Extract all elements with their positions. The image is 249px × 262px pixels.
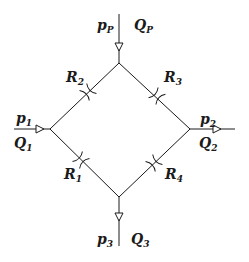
edge-left-top: [50, 63, 119, 129]
edge-left-bottom: [50, 129, 119, 197]
label-r4: R4: [164, 166, 183, 184]
label-r3: R3: [163, 69, 182, 87]
resistor-r3-icon: [149, 87, 166, 104]
label-pressure-2: p2: [200, 111, 216, 129]
label-flow-2: Q2: [199, 135, 217, 153]
edge-top-right: [119, 63, 190, 129]
arrow-down-icon: [115, 213, 123, 221]
label-r1: R1: [63, 166, 82, 184]
label-pressure-1: p1: [16, 110, 32, 128]
edge-right-bottom: [119, 129, 190, 197]
label-flow-p: QP: [134, 17, 153, 35]
arrow-down-icon: [115, 43, 123, 51]
label-r2: R2: [65, 69, 84, 87]
label-pressure-p: pP: [97, 17, 114, 35]
arrow-right-icon: [36, 125, 44, 133]
bridge-diagram: pP QP p1 Q1 p2 Q2 p3 Q3 R2 R3 R1 R4: [0, 0, 249, 262]
label-flow-3: Q3: [131, 231, 149, 249]
label-pressure-3: p3: [97, 231, 113, 249]
label-flow-1: Q1: [14, 135, 32, 153]
